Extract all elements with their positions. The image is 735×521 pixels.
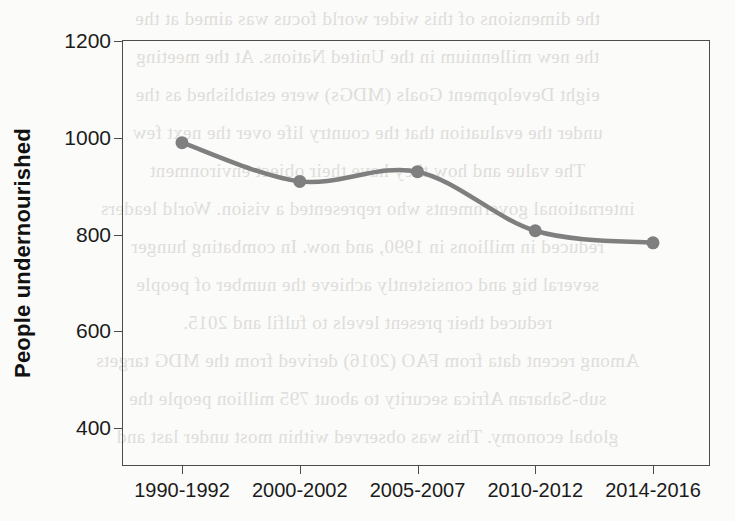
y-axis-tick-label: 400	[76, 416, 111, 440]
chart-figure: the dimensions of this wider world focus…	[0, 0, 735, 521]
y-axis-tick	[114, 331, 123, 332]
y-axis-tick-label: 1000	[64, 126, 111, 150]
x-axis-tick-label: 1990-1992	[134, 479, 230, 502]
x-axis-tick-label: 2010-2012	[487, 479, 583, 502]
data-point-marker	[293, 175, 306, 188]
y-axis-tick-label: 800	[76, 223, 111, 247]
y-axis-tick	[114, 138, 123, 139]
data-series-line	[123, 41, 711, 467]
data-point-marker	[529, 224, 542, 237]
data-point-marker	[411, 165, 424, 178]
data-point-marker	[176, 136, 189, 149]
y-axis-tick	[114, 235, 123, 236]
x-axis-tick-label: 2000-2002	[252, 479, 348, 502]
series-path	[182, 143, 653, 243]
x-axis-tick-label: 2005-2007	[370, 479, 466, 502]
bleed-text-line: the dimensions of this wider world focus…	[0, 8, 735, 30]
data-point-marker	[647, 236, 660, 249]
x-axis-tick-label: 2014-2016	[605, 479, 701, 502]
series-markers	[176, 136, 660, 249]
plot-area: 40060080010001200 1990-19922000-20022005…	[122, 40, 710, 466]
y-axis-tick-label: 600	[76, 319, 111, 343]
y-axis-title-label: People undernourished	[10, 128, 36, 378]
y-axis-tick	[114, 428, 123, 429]
y-axis-tick	[114, 41, 123, 42]
y-axis-tick-label: 1200	[64, 29, 111, 53]
y-axis-title: People undernourished	[6, 40, 40, 466]
